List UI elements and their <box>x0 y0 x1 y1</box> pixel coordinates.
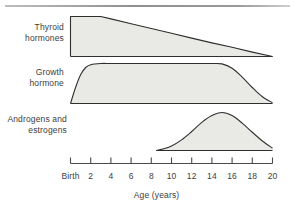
x-axis-tick-label-16: 16 <box>227 171 237 181</box>
x-axis-tick-label-birth: Birth <box>62 171 80 181</box>
curve-fill-2 <box>71 63 273 103</box>
x-axis-tick-label-6: 6 <box>129 171 134 181</box>
x-axis-tick-label-20: 20 <box>268 171 278 181</box>
curve-fill-1 <box>71 17 273 57</box>
x-axis-title-text: Age (years) <box>134 190 180 200</box>
x-axis-tick-label-18: 18 <box>247 171 257 181</box>
x-axis-tick-label-10: 10 <box>167 171 177 181</box>
x-axis <box>71 158 273 164</box>
x-axis-tick-label-4: 4 <box>108 171 113 181</box>
x-axis-tick-label-2: 2 <box>88 171 93 181</box>
curve-group <box>71 17 273 151</box>
x-axis-tick-label-12: 12 <box>187 171 197 181</box>
x-axis-title: Age (years) <box>0 190 295 200</box>
x-axis-tick-label-14: 14 <box>207 171 217 181</box>
hormone-secretion-figure: Thyroid hormones Growth hormone Androgen… <box>0 0 295 212</box>
x-axis-tick-label-8: 8 <box>149 171 154 181</box>
